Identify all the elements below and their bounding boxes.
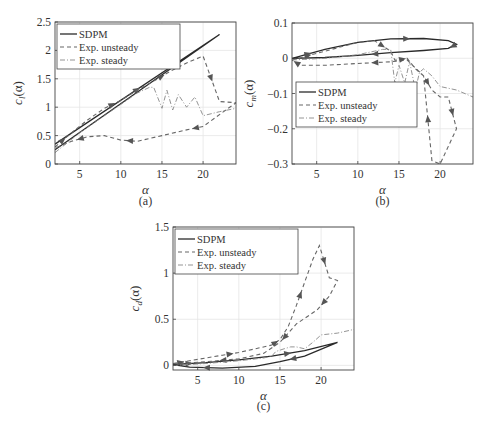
x-tick-label: 5 [195,374,201,386]
legend-entry: Exp. unsteady [318,100,378,111]
subplot-caption: (c) [257,399,270,413]
y-tick-label: 1.5 [37,73,52,85]
figure: 510152000.511.522.5αcl(α)(a)SDPMExp. uns… [0,0,487,427]
direction-arrow-icon [320,257,328,265]
direction-arrow-icon [425,115,432,123]
direction-arrow-icon [403,36,410,42]
legend-entry: Exp. unsteady [197,247,257,258]
direction-arrow-icon [448,108,456,116]
y-tick-label: 0.5 [37,130,52,142]
x-tick-label: 10 [352,168,364,180]
y-tick-label: 0.5 [155,313,170,325]
series-exp-steady [55,87,236,152]
subplot-caption: (a) [139,194,152,208]
legend-entry: Exp. unsteady [79,42,139,53]
legend-entry: SDPM [79,29,108,40]
x-tick-label: 15 [156,168,168,180]
y-tick-label: 1 [163,267,169,279]
x-tick-label: 10 [115,168,127,180]
direction-arrow-icon [76,135,84,143]
x-tick-label: 15 [393,168,405,180]
y-tick-label: 0.1 [274,17,289,29]
x-tick-label: 20 [434,168,446,180]
y-tick-label: −0.2 [267,123,288,135]
subplot-caption: (b) [376,194,390,208]
y-axis-label: cl(α) [10,81,27,105]
series-exp-unsteady [55,56,236,148]
y-axis-label: cm(α) [241,80,258,108]
x-tick-label: 5 [77,168,83,180]
legend: SDPMExp. unsteadyExp. steady [296,82,417,127]
legend-entry: Exp. steady [79,55,129,66]
x-tick-label: 15 [274,374,286,386]
x-tick-label: 20 [197,168,209,180]
direction-arrow-icon [399,56,407,63]
legend: SDPMExp. unsteadyExp. steady [57,24,180,69]
legend: SDPMExp. unsteadyExp. steady [175,229,298,274]
y-tick-label: 1 [45,101,51,113]
legend-entry: Exp. steady [318,113,368,124]
direction-arrow-icon [378,41,387,50]
y-tick-label: 1.5 [155,221,170,233]
direction-arrow-icon [296,290,304,299]
x-tick-label: 10 [233,374,245,386]
direction-arrow-icon [371,59,378,65]
direction-arrow-icon [126,138,133,144]
y-tick-label: −0.3 [267,158,288,170]
x-tick-label: 5 [314,168,320,180]
plot-b: 5101520−0.3−0.2−0.100.1αcm(α)(b)SDPMExp.… [241,17,473,208]
direction-arrow-icon [289,355,297,362]
y-tick-label: 2.5 [37,16,52,28]
plot-c: 510152000.511.5αcd(α)(c)SDPMExp. unstead… [127,221,354,413]
y-tick-label: 0 [282,52,288,64]
legend-entry: SDPM [318,87,347,98]
y-axis-label: cd(α) [127,286,144,312]
direction-arrow-icon [226,350,234,357]
legend-entry: Exp. steady [197,260,247,271]
y-tick-label: 0 [163,359,169,371]
direction-arrow-icon [207,74,215,83]
legend-entry: SDPM [197,234,226,245]
y-tick-label: 0 [45,158,51,170]
y-tick-label: 2 [45,44,51,56]
direction-arrow-icon [191,124,199,131]
plot-a: 510152000.511.522.5αcl(α)(a)SDPMExp. uns… [10,16,236,208]
direction-arrow-icon [319,298,328,307]
x-tick-label: 20 [315,374,327,386]
y-tick-label: −0.1 [267,88,288,100]
